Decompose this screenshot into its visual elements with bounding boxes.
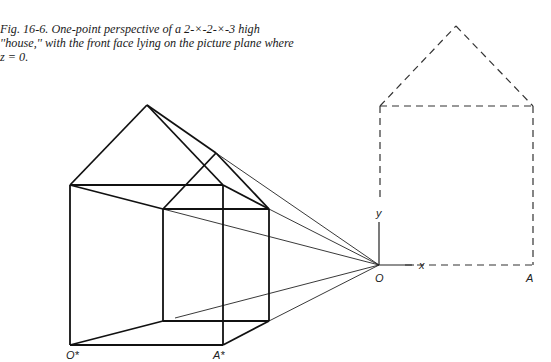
label-origin-star: O* (66, 349, 80, 361)
axes (379, 222, 414, 265)
label-point-a: A (525, 272, 533, 284)
label-y-axis: y (375, 207, 383, 219)
label-x-axis: x (418, 259, 425, 271)
dashed-reference-house (380, 26, 533, 265)
label-origin: O (375, 272, 384, 284)
perspective-house (70, 105, 269, 345)
projection-lines (163, 153, 379, 321)
perspective-diagram: O x y A O* A* (0, 0, 551, 362)
label-point-a-star: A* (212, 349, 225, 361)
